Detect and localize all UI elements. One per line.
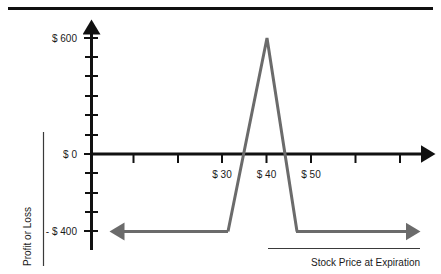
y-axis-title-group: Profit or Loss xyxy=(22,132,44,266)
x-axis-title-group: Stock Price at Expiration xyxy=(268,249,420,269)
x-axis-title: Stock Price at Expiration xyxy=(311,257,420,268)
x-tick-label-50: $ 50 xyxy=(301,169,321,180)
y-axis: $ 600 $ 0 - $ 400 xyxy=(46,30,98,250)
payoff-series xyxy=(120,38,410,232)
payoff-tent xyxy=(228,38,297,232)
x-axis: $ 30 $ 40 $ 50 xyxy=(92,154,426,180)
x-tick-label-40: $ 40 xyxy=(257,169,277,180)
y-tick-label-neg400: - $ 400 xyxy=(46,226,78,237)
y-axis-title: Profit or Loss xyxy=(22,207,33,266)
y-tick-label-0: $ 0 xyxy=(63,149,77,160)
payoff-diagram: $ 600 $ 0 - $ 400 $ 30 $ 40 $ 50 xyxy=(0,0,441,274)
chart-screenshot: $ 600 $ 0 - $ 400 $ 30 $ 40 $ 50 xyxy=(0,0,441,274)
y-tick-label-600: $ 600 xyxy=(52,33,77,44)
x-tick-label-30: $ 30 xyxy=(212,169,232,180)
